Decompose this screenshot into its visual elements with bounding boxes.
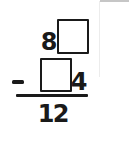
scan-artifact-vertical-line <box>99 1 100 77</box>
subtrahend-ones-digit: 4 <box>69 70 89 94</box>
answer-rule-line <box>16 94 88 97</box>
minuend-ones-blank-box[interactable] <box>57 19 89 54</box>
minus-operator-icon <box>12 80 24 84</box>
subtrahend-tens-blank-box[interactable] <box>40 58 72 92</box>
minuend-tens-digit: 8 <box>39 30 59 54</box>
scan-artifact-top-line <box>100 0 129 2</box>
difference-ones-digit: 2 <box>51 102 71 126</box>
subtraction-worksheet: 8 4 1 2 <box>0 0 129 148</box>
